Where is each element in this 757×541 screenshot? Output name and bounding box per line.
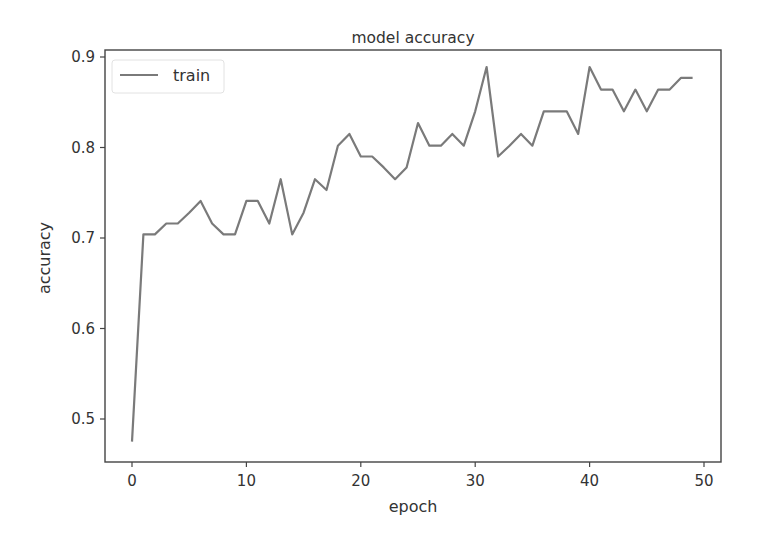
y-tick-label: 0.5	[71, 410, 95, 428]
x-tick-label: 30	[466, 472, 485, 490]
x-axis: 01020304050	[127, 462, 713, 490]
plot-frame	[105, 50, 721, 462]
legend: train	[112, 60, 224, 93]
x-axis-label: epoch	[389, 497, 438, 516]
accuracy-chart: model accuracy 01020304050 0.50.60.70.80…	[0, 0, 757, 541]
x-tick-label: 10	[237, 472, 256, 490]
y-tick-label: 0.7	[71, 229, 95, 247]
y-axis-label: accuracy	[35, 222, 54, 294]
train-series-line	[132, 67, 693, 442]
x-tick-label: 20	[351, 472, 370, 490]
chart-title: model accuracy	[351, 29, 474, 47]
legend-train-label: train	[173, 66, 210, 85]
y-tick-label: 0.6	[71, 320, 95, 338]
y-axis: 0.50.60.70.80.9	[71, 48, 105, 428]
y-tick-label: 0.9	[71, 48, 95, 66]
x-tick-label: 50	[694, 472, 713, 490]
y-tick-label: 0.8	[71, 139, 95, 157]
x-tick-label: 0	[127, 472, 137, 490]
x-tick-label: 40	[580, 472, 599, 490]
